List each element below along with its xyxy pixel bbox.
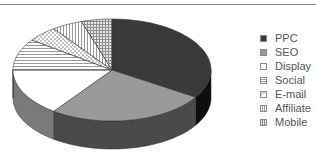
legend: PPC SEO Display Social E-mail Affiliate …	[260, 31, 311, 129]
swatch-seo-icon	[260, 49, 267, 56]
legend-item-email: E-mail	[260, 87, 311, 101]
swatch-email-icon	[260, 91, 267, 98]
legend-item-social: Social	[260, 73, 311, 87]
swatch-social-icon	[260, 77, 267, 84]
swatch-mobile-icon	[260, 119, 267, 126]
legend-label: E-mail	[275, 87, 306, 101]
legend-label: PPC	[275, 31, 298, 45]
pie-top	[13, 19, 211, 121]
legend-item-display: Display	[260, 59, 311, 73]
legend-label: Affiliate	[275, 101, 311, 115]
legend-item-seo: SEO	[260, 45, 311, 59]
legend-item-ppc: PPC	[260, 31, 311, 45]
swatch-ppc-icon	[260, 35, 267, 42]
legend-label: Social	[275, 73, 305, 87]
legend-label: Mobile	[275, 115, 307, 129]
legend-label: SEO	[275, 45, 298, 59]
legend-label: Display	[275, 59, 311, 73]
swatch-affiliate-icon	[260, 105, 267, 112]
legend-item-mobile: Mobile	[260, 115, 311, 129]
legend-item-affiliate: Affiliate	[260, 101, 311, 115]
swatch-display-icon	[260, 63, 267, 70]
